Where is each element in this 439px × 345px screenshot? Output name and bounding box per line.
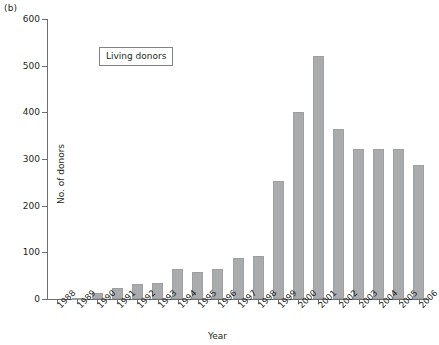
y-axis-tick-label: 300: [2, 154, 40, 164]
y-axis-tick-label: 100: [2, 247, 40, 257]
bar: [293, 112, 304, 299]
y-axis-tick: [42, 66, 47, 67]
y-axis-tick-label: 0: [2, 294, 40, 304]
bar: [413, 165, 424, 299]
bar: [313, 56, 324, 299]
y-axis-tick: [42, 299, 47, 300]
y-axis-tick-labels: 0100200300400500600: [0, 0, 40, 345]
y-axis-tick-label: 500: [2, 61, 40, 71]
bar: [373, 149, 384, 299]
y-axis-tick: [42, 252, 47, 253]
y-axis-tick: [42, 112, 47, 113]
y-axis-tick-label: 400: [2, 107, 40, 117]
legend-label: Living donors: [106, 51, 166, 61]
y-axis-tick: [42, 206, 47, 207]
bar: [393, 149, 404, 299]
legend-box: Living donors: [99, 47, 173, 66]
y-axis-tick-label: 200: [2, 201, 40, 211]
bar: [273, 181, 284, 299]
y-axis-tick-label: 600: [2, 14, 40, 24]
y-axis-title: No. of donors: [56, 114, 66, 234]
y-axis-tick: [42, 159, 47, 160]
bar: [333, 129, 344, 299]
x-axis-title: Year: [0, 331, 435, 341]
bar: [353, 149, 364, 299]
y-axis-tick: [42, 19, 47, 20]
plot-area: No. of donors Living donors: [47, 19, 429, 299]
